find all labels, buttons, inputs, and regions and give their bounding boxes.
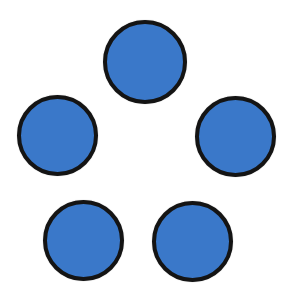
circle-bottom-right [152, 201, 233, 282]
circle-left [17, 95, 98, 176]
circle-bottom-left [43, 200, 124, 281]
circle-right [195, 96, 276, 177]
circle-top [103, 20, 187, 104]
